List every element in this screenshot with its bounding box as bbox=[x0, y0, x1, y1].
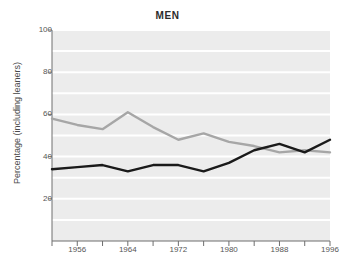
plot-area bbox=[0, 0, 335, 269]
chart-figure: MEN Percentage (including leaners) 20406… bbox=[0, 0, 335, 269]
